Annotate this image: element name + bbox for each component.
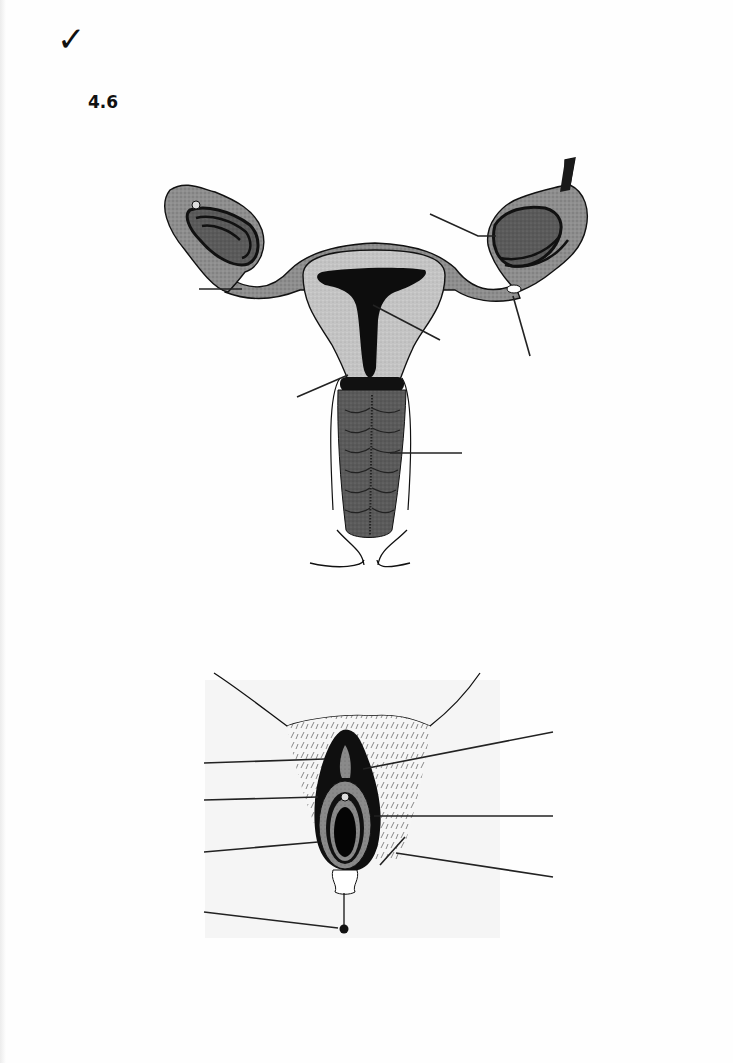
external-genitalia-diagram bbox=[0, 0, 733, 1063]
anus bbox=[340, 925, 349, 934]
worksheet-page: ✓ 4.6 bbox=[0, 0, 733, 1063]
